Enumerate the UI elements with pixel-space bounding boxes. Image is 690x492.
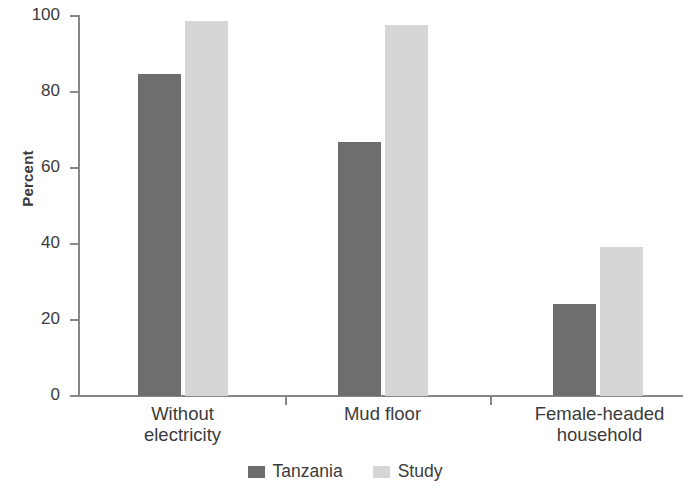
x-category-label-2-line1: household [517, 425, 682, 446]
x-category-label-2: Female-headed household [517, 404, 682, 445]
bars-layer [0, 0, 690, 396]
chart-legend: Tanzania Study [0, 463, 690, 481]
bar-chart-figure: Percent 100 80 60 40 20 0 Without electr… [0, 0, 690, 492]
bar-study-mud-floor [385, 25, 428, 396]
legend-item-study: Study [373, 463, 443, 481]
x-tick-mark-1 [285, 396, 287, 405]
bar-tanzania-mud-floor [338, 142, 381, 396]
bar-study-female-headed-household [600, 247, 643, 396]
legend-label-study: Study [398, 463, 443, 481]
x-tick-mark-2 [490, 396, 492, 405]
x-category-label-0-line1: electricity [110, 425, 255, 446]
legend-item-tanzania: Tanzania [248, 463, 343, 481]
x-category-label-1-line0: Mud floor [310, 404, 455, 425]
bar-tanzania-female-headed-household [553, 304, 596, 396]
x-category-label-2-line0: Female-headed [517, 404, 682, 425]
bar-tanzania-without-electricity [138, 74, 181, 396]
legend-swatch-tanzania-icon [248, 466, 265, 478]
bar-study-without-electricity [185, 21, 228, 396]
legend-label-tanzania: Tanzania [273, 463, 343, 481]
legend-swatch-study-icon [373, 466, 390, 478]
x-category-label-0-line0: Without [110, 404, 255, 425]
x-category-label-1: Mud floor [310, 404, 455, 425]
x-category-label-0: Without electricity [110, 404, 255, 445]
